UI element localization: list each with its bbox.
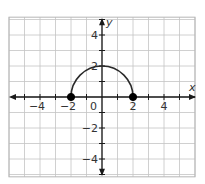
origin-label: 0	[90, 100, 97, 113]
y-tick-label: 4	[91, 29, 98, 42]
x-tick-label: 4	[161, 100, 168, 113]
x-tick-label: −2	[60, 100, 76, 113]
endpoint-dot	[129, 93, 136, 100]
x-tick-label: −4	[29, 100, 45, 113]
y-axis-label: y	[105, 16, 113, 29]
x-axis-left-arrow-icon	[9, 94, 16, 100]
endpoint-dot	[67, 93, 74, 100]
x-tick-label: 2	[130, 100, 137, 113]
coordinate-graph: −4−2240−4−224 x y	[0, 0, 205, 184]
x-axis-label: x	[188, 81, 196, 94]
y-tick-label: −2	[82, 122, 98, 135]
y-tick-label: −4	[82, 153, 98, 166]
axes	[9, 18, 196, 176]
